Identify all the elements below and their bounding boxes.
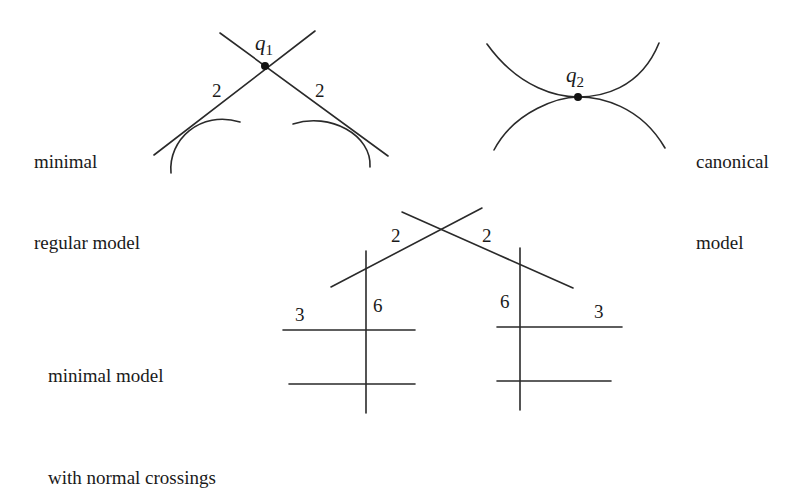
curve-left-line [154,31,315,155]
multiplicity-label: 2 [391,225,401,246]
minimal-regular-model-diagram: q1 2 2 [154,31,388,173]
multiplicity-label: 2 [315,80,325,101]
canonical-model-diagram: q2 [487,43,665,150]
point-q2-label: q2 [566,63,584,90]
multiplicity-label: 2 [212,80,222,101]
curve-lower [494,97,665,150]
point-q2 [574,93,582,101]
multiplicity-label: 3 [594,301,604,322]
multiplicity-label: 6 [500,291,510,312]
normal-crossings-diagram: 2 2 6 6 3 3 [283,208,622,413]
top-right-line [402,212,573,288]
point-q1-label: q1 [255,31,273,58]
curve-right-line [220,33,388,156]
multiplicity-label: 3 [295,304,305,325]
top-left-line [331,208,482,287]
label-line-2: with normal crossings [48,461,216,492]
multiplicity-label: 2 [482,225,492,246]
point-q1 [261,62,269,70]
exceptional-curve-left [171,119,240,173]
exceptional-curve-right [293,121,370,167]
multiplicity-label: 6 [373,295,383,316]
